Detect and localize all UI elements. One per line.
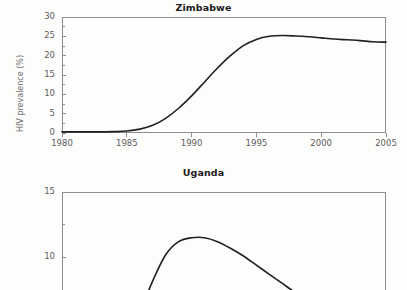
chart-title-zimbabwe: Zimbabwe [0, 2, 407, 13]
tick-label: 2000 [304, 138, 338, 148]
figure-hiv-prevalence: Zimbabwe HIV prevalence (%) 051015202530… [0, 0, 407, 290]
tick-mark [191, 133, 192, 137]
chart-panel-zimbabwe: Zimbabwe HIV prevalence (%) 051015202530… [0, 0, 407, 160]
plot-area-zimbabwe: 051015202530 198019851990199520002005 [62, 17, 386, 133]
tick-label: 10 [44, 88, 55, 98]
tick-label: 20 [44, 50, 55, 60]
tick-label: 2005 [369, 138, 403, 148]
tick-mark [126, 133, 127, 137]
tick-mark [321, 133, 322, 137]
plot-area-uganda: 51015 [62, 192, 386, 290]
tick-label: 10 [44, 251, 55, 261]
tick-label: 15 [44, 186, 55, 196]
chart-title-uganda: Uganda [0, 167, 407, 178]
tick-mark [386, 133, 387, 137]
tick-mark [256, 133, 257, 137]
tick-label: 25 [44, 30, 55, 40]
tick-label: 1985 [110, 138, 144, 148]
series-line-zimbabwe [62, 17, 386, 133]
tick-label: 15 [44, 69, 55, 79]
tick-label: 0 [50, 127, 55, 137]
tick-label: 30 [44, 11, 55, 21]
tick-label: 1990 [175, 138, 209, 148]
curve-path-zimbabwe [62, 36, 386, 132]
tick-mark [62, 133, 63, 137]
series-line-uganda [62, 192, 386, 290]
curve-path-uganda [62, 237, 386, 290]
tick-label: 1980 [45, 138, 79, 148]
tick-label: 1995 [239, 138, 273, 148]
tick-label: 5 [50, 108, 55, 118]
y-axis-label-zimbabwe: HIV prevalence (%) [16, 55, 25, 132]
